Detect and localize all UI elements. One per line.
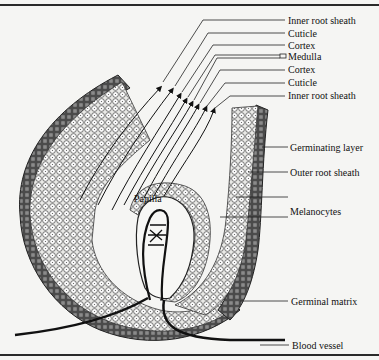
label-blood-vessel: Blood vessel bbox=[292, 340, 343, 351]
label-cortex-bottom: Cortex bbox=[288, 64, 315, 75]
label-inner-root-sheath-bottom: Inner root sheath bbox=[288, 90, 356, 101]
label-melanocytes: Melanocytes bbox=[290, 206, 341, 217]
label-germinal-matrix: Germinal matrix bbox=[291, 296, 357, 307]
hair-follicle-figure: Inner root sheath Cuticle Cortex Medulla… bbox=[0, 0, 379, 360]
label-papilla: Papilla bbox=[134, 193, 162, 204]
label-cuticle-bottom: Cuticle bbox=[288, 77, 317, 88]
label-germinating-layer: Germinating layer bbox=[290, 142, 363, 153]
label-inner-root-sheath-top: Inner root sheath bbox=[288, 15, 356, 26]
label-outer-root-sheath: Outer root sheath bbox=[290, 167, 359, 178]
label-cortex-top: Cortex bbox=[288, 40, 315, 51]
label-cuticle-top: Cuticle bbox=[288, 28, 317, 39]
label-medulla: Medulla bbox=[288, 51, 321, 62]
